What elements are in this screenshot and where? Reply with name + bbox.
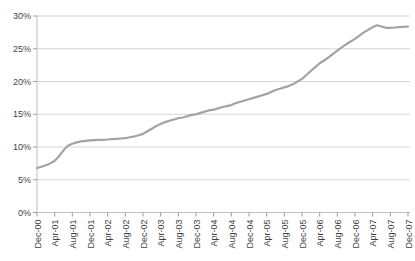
x-tick-label: Dec-07 — [404, 220, 414, 249]
x-tick-label: Apr-04 — [209, 220, 219, 247]
x-tick-label: Aug-02 — [121, 220, 131, 249]
x-tick-label: Apr-03 — [156, 220, 166, 247]
x-tick-label: Apr-06 — [315, 220, 325, 247]
y-tick-label: 10% — [13, 142, 31, 152]
y-tick-label: 5% — [18, 175, 31, 185]
x-tick-label: Dec-05 — [298, 220, 308, 249]
y-axis: 0%5%10%15%20%25%30% — [13, 11, 37, 218]
y-tick-label: 20% — [13, 77, 31, 87]
line-chart: 0%5%10%15%20%25%30%Dec-00Apr-01Aug-01Dec… — [0, 0, 415, 261]
x-tick-label: Dec-00 — [33, 220, 43, 249]
x-tick-label: Apr-07 — [368, 220, 378, 247]
x-tick-label: Aug-07 — [386, 220, 396, 249]
x-tick-label: Dec-06 — [351, 220, 361, 249]
x-tick-label: Apr-01 — [50, 220, 60, 247]
y-tick-label: 15% — [13, 109, 31, 119]
x-axis: Dec-00Apr-01Aug-01Dec-01Apr-02Aug-02Dec-… — [33, 213, 414, 249]
x-tick-label: Aug-06 — [333, 220, 343, 249]
x-tick-label: Aug-03 — [174, 220, 184, 249]
x-tick-label: Apr-05 — [262, 220, 272, 247]
x-tick-label: Dec-03 — [192, 220, 202, 249]
x-tick-label: Aug-05 — [280, 220, 290, 249]
y-tick-label: 0% — [18, 208, 31, 218]
x-tick-label: Aug-01 — [68, 220, 78, 249]
x-tick-label: Aug-04 — [227, 219, 237, 248]
y-tick-label: 30% — [13, 11, 31, 21]
x-tick-label: Dec-02 — [139, 220, 149, 249]
y-tick-label: 25% — [13, 44, 31, 54]
x-tick-label: Dec-01 — [86, 220, 96, 249]
x-tick-label: Dec-04 — [245, 220, 255, 249]
chart-container: 0%5%10%15%20%25%30%Dec-00Apr-01Aug-01Dec… — [0, 0, 415, 261]
x-tick-label: Apr-02 — [103, 220, 113, 247]
